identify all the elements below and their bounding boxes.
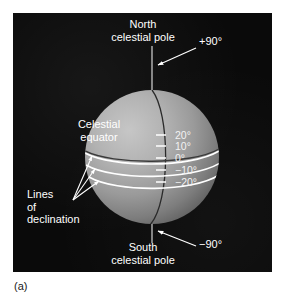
arrow-north-pole (158, 48, 196, 65)
declination-scale-label-10: 10° (175, 140, 191, 152)
label-declination-minus-90: −90° (199, 238, 222, 251)
label-north-celestial-pole: North celestial pole (87, 18, 199, 43)
figure-caption: (a) (14, 280, 27, 293)
figure-root: North celestial pole +90° South celestia… (0, 0, 283, 302)
declination-scale-label-minus-10: −10° (175, 164, 197, 176)
declination-scale-label-minus-20: −20° (175, 176, 197, 188)
diagram-panel: North celestial pole +90° South celestia… (13, 13, 272, 272)
label-declination-plus-90: +90° (199, 35, 222, 48)
label-south-celestial-pole: South celestial pole (87, 241, 199, 266)
declination-scale-label-0: 0° (175, 152, 185, 164)
label-lines-of-declination: Lines of declination (27, 188, 113, 226)
label-celestial-equator: Celestial equator (51, 118, 147, 143)
